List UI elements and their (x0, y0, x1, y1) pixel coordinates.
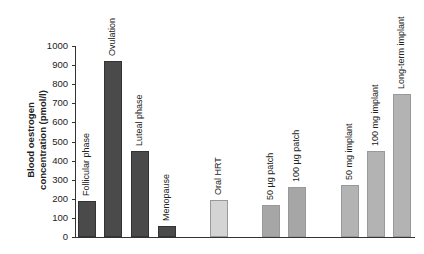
bar-label: 50 mg implant (344, 124, 354, 181)
y-tick-label: 800 (30, 79, 68, 89)
bar-label: Luteal phase (134, 95, 144, 147)
y-tick (72, 161, 75, 162)
bar (104, 61, 122, 237)
bar-label: 100 mg implant (370, 85, 380, 147)
y-tick (72, 122, 75, 123)
y-tick (72, 46, 75, 47)
bar (210, 200, 228, 237)
y-tick-label: 100 (30, 213, 68, 223)
y-tick-label: 400 (30, 156, 68, 166)
bar-chart: Blood oestrogen concentration (pmol/l) 0… (0, 0, 424, 254)
y-tick-label: 1000 (30, 41, 68, 51)
bar (341, 185, 359, 237)
bar (288, 187, 306, 237)
bar (367, 151, 385, 237)
y-tick-label: 200 (30, 194, 68, 204)
y-tick (72, 103, 75, 104)
x-axis (75, 237, 415, 238)
y-axis (75, 46, 76, 238)
bar-label: Menopause (161, 174, 171, 221)
y-tick (72, 180, 75, 181)
bar-label: Oral HRT (213, 157, 223, 195)
bar-label: 100 µg patch (291, 130, 301, 182)
bar-label: 50 µg patch (265, 153, 275, 200)
y-tick (72, 218, 75, 219)
y-tick (72, 199, 75, 200)
y-tick-label: 600 (30, 117, 68, 127)
y-tick (72, 237, 75, 238)
bar (262, 205, 280, 237)
y-tick-label: 300 (30, 175, 68, 185)
bar (78, 201, 96, 237)
bar-label: Ovulation (107, 18, 117, 56)
y-tick (72, 84, 75, 85)
y-tick-label: 0 (30, 232, 68, 242)
y-tick (72, 65, 75, 66)
y-tick (72, 142, 75, 143)
bar-label: Follicular phase (81, 133, 91, 196)
bar-label: Long-term implant (396, 16, 406, 89)
y-tick-label: 500 (30, 137, 68, 147)
y-tick-label: 700 (30, 98, 68, 108)
y-tick-label: 900 (30, 60, 68, 70)
bar (158, 226, 176, 237)
bar (393, 94, 411, 237)
bar (131, 151, 149, 237)
